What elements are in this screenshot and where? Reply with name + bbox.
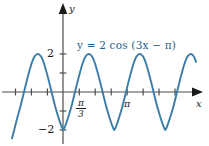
fraction-numerator: π (76, 98, 86, 109)
x-tick-label-pi: π (124, 99, 130, 109)
y-axis-arrowhead (59, 3, 68, 14)
y-tick-label-2: 2 (47, 48, 54, 59)
x-tick-label-pi-over-3: π 3 (76, 98, 86, 120)
equation-label: y = 2 cos (3x − π) (77, 40, 176, 51)
x-axis-arrowhead (192, 88, 203, 97)
axes-group (2, 3, 203, 144)
fraction-pi-over-3: π 3 (76, 98, 86, 120)
graph-figure: y = 2 cos (3x − π) y x 2 −2 π 3 π (0, 0, 209, 146)
y-tick-label-negative-2: −2 (38, 124, 54, 135)
graph-canvas (0, 0, 209, 146)
y-axis-label: y (69, 4, 75, 14)
x-axis-label: x (196, 99, 202, 109)
fraction-denominator: 3 (76, 109, 86, 119)
